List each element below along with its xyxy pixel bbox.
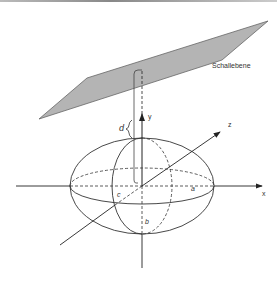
semi-axis-a-label: a	[191, 185, 195, 192]
x-axis-label: x	[262, 190, 266, 197]
distance-brace	[126, 120, 132, 138]
diagram-graphics	[0, 0, 277, 281]
semi-axis-c-label: c	[117, 191, 121, 198]
ellipsoid-sound-plane-diagram: Schallebene y z x d a b c	[0, 0, 277, 281]
semi-axis-b-label: b	[145, 218, 149, 225]
plane-label: Schallebene	[212, 62, 251, 69]
distance-label: d	[119, 123, 124, 133]
z-axis-back	[142, 132, 220, 186]
z-axis-front	[60, 205, 115, 245]
sound-plane	[39, 21, 268, 119]
z-axis-label: z	[228, 121, 232, 128]
y-axis-label: y	[148, 113, 152, 120]
